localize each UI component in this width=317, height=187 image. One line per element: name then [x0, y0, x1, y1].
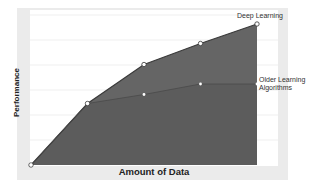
older-algorithms-area — [31, 84, 257, 165]
y-axis-label: Performance — [12, 63, 21, 123]
older-algorithms-label-line1: Older Learning — [259, 76, 305, 84]
data-point-marker — [86, 102, 89, 105]
older-algorithms-label-line2: Algorithms — [259, 84, 305, 92]
deep-learning-label: Deep Learning — [237, 12, 283, 20]
data-point-marker — [142, 62, 146, 66]
older-algorithms-label: Older Learning Algorithms — [259, 76, 305, 92]
data-point-marker — [199, 83, 202, 86]
data-point-marker — [255, 22, 259, 26]
data-point-marker — [143, 93, 146, 96]
data-point-marker — [198, 41, 202, 45]
data-point-marker — [256, 83, 259, 86]
x-axis-label: Amount of Data — [30, 166, 278, 177]
area-chart — [0, 0, 317, 187]
